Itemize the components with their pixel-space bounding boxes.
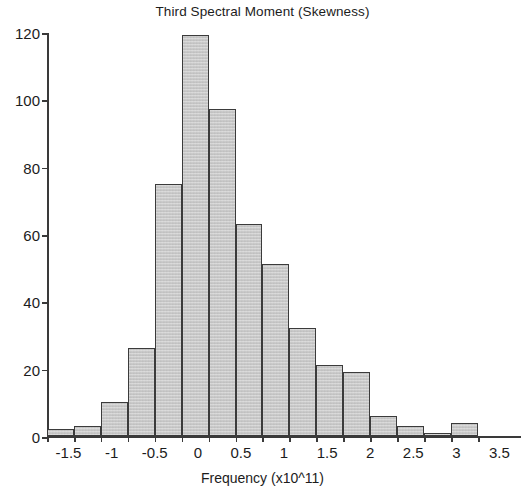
- x-tick-mark: [370, 436, 372, 442]
- y-tick-label: 80: [23, 159, 40, 176]
- x-tick-label: 1.5: [317, 444, 338, 461]
- histogram-bar: [74, 426, 101, 436]
- x-tick-mark: [343, 436, 345, 442]
- x-tick-mark: [155, 436, 157, 442]
- histogram-bar: [128, 348, 155, 436]
- x-tick-mark: [74, 436, 76, 442]
- x-axis-line: [47, 436, 521, 438]
- x-tick-mark: [209, 436, 211, 442]
- x-tick-mark: [182, 436, 184, 442]
- histogram-bar: [451, 423, 478, 436]
- histogram-bar: [182, 35, 209, 436]
- histogram-bar: [424, 433, 451, 436]
- y-tick-label: 60: [23, 227, 40, 244]
- histogram-bar: [397, 426, 424, 436]
- y-tick-mark: [42, 168, 47, 170]
- x-tick-mark: [397, 436, 399, 442]
- histogram-bar: [155, 184, 182, 437]
- histogram-bar: [289, 328, 316, 436]
- y-tick-label: 0: [32, 429, 40, 446]
- histogram-bar: [262, 264, 289, 436]
- x-tick-label: 3.5: [489, 444, 510, 461]
- x-tick-label: -0.5: [142, 444, 168, 461]
- x-tick-mark: [424, 436, 426, 442]
- histogram-bar: [370, 416, 397, 436]
- x-tick-label: 2.5: [403, 444, 424, 461]
- x-tick-mark: [478, 436, 480, 442]
- y-axis-line: [47, 33, 49, 438]
- histogram-bar: [209, 109, 236, 436]
- y-tick-mark: [42, 235, 47, 237]
- x-tick-label: 3: [452, 444, 460, 461]
- x-tick-mark: [451, 436, 453, 442]
- x-axis-title: Frequency (x10^11): [0, 470, 525, 486]
- x-tick-mark: [128, 436, 130, 442]
- x-tick-label: 0: [194, 444, 202, 461]
- histogram-bar: [316, 365, 343, 436]
- y-tick-label: 40: [23, 294, 40, 311]
- x-tick-mark: [289, 436, 291, 442]
- x-tick-mark: [47, 436, 49, 442]
- x-tick-mark: [101, 436, 103, 442]
- y-tick-mark: [42, 370, 47, 372]
- x-tick-label: -1.5: [56, 444, 82, 461]
- histogram-bar: [47, 429, 74, 436]
- histogram-bar: [101, 402, 128, 436]
- y-tick-mark: [42, 33, 47, 35]
- histogram-chart: Third Spectral Moment (Skewness) 0204060…: [0, 0, 525, 492]
- histogram-bar: [236, 224, 263, 436]
- x-tick-label: 0.5: [230, 444, 251, 461]
- x-tick-mark: [316, 436, 318, 442]
- plot-area: 020406080100120 -1.5-1-0.500.511.522.533…: [47, 33, 521, 437]
- x-tick-mark: [236, 436, 238, 442]
- y-tick-label: 120: [15, 25, 40, 42]
- y-tick-mark: [42, 100, 47, 102]
- x-tick-label: 1: [280, 444, 288, 461]
- y-tick-label: 20: [23, 361, 40, 378]
- x-tick-label: -1: [105, 444, 118, 461]
- y-tick-label: 100: [15, 92, 40, 109]
- chart-title: Third Spectral Moment (Skewness): [0, 4, 525, 19]
- x-tick-mark: [262, 436, 264, 442]
- x-tick-label: 2: [366, 444, 374, 461]
- histogram-bar: [343, 372, 370, 436]
- y-tick-mark: [42, 302, 47, 304]
